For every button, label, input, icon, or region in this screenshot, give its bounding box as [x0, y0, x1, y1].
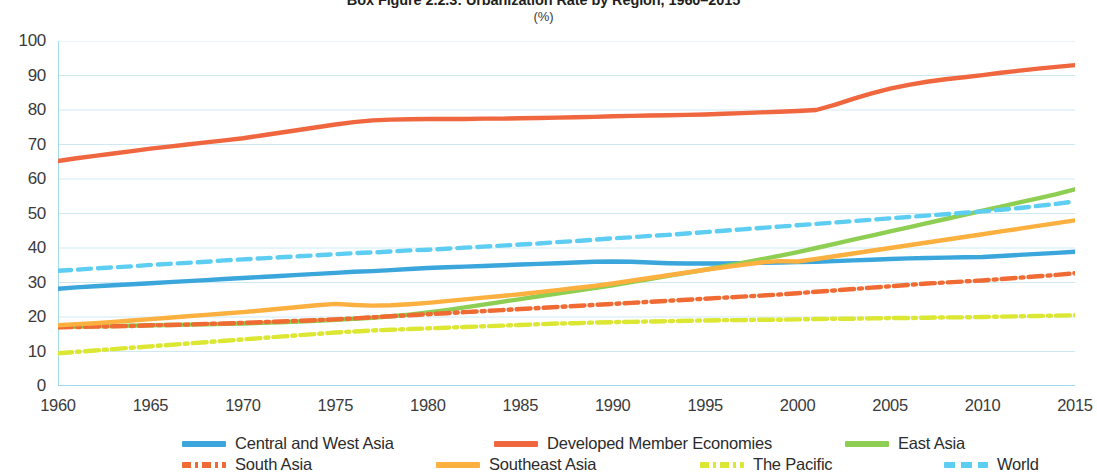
y-axis-tick: 50: [2, 205, 46, 222]
y-axis-tick: 60: [2, 170, 46, 187]
legend-row-top: Central and West AsiaDeveloped Member Ec…: [0, 434, 1087, 455]
x-axis-tick: 1960: [18, 397, 98, 414]
legend-item[interactable]: East Asia: [845, 435, 965, 452]
legend-color-swatch: [700, 462, 744, 468]
legend-color-swatch: [944, 462, 988, 468]
y-axis-tick: 20: [2, 308, 46, 325]
line-chart-canvas: [58, 41, 1075, 386]
y-axis-tick: 70: [2, 136, 46, 153]
x-axis-tick: 1990: [573, 397, 653, 414]
legend-label: Central and West Asia: [235, 435, 394, 452]
x-axis-tick: 1995: [665, 397, 745, 414]
legend-label: Southeast Asia: [489, 456, 596, 473]
legend-color-swatch: [494, 441, 538, 447]
page-title: Box Figure 2.2.3: Urbanization Rate by R…: [0, 0, 1087, 8]
legend-label: World: [997, 456, 1039, 473]
y-axis-tick: 40: [2, 239, 46, 256]
y-axis-tick: 30: [2, 274, 46, 291]
x-axis-tick: 1985: [480, 397, 560, 414]
legend-color-swatch: [182, 462, 226, 468]
y-axis-tick: 10: [2, 343, 46, 360]
x-axis-tick: 1970: [203, 397, 283, 414]
chart-legend: Central and West AsiaDeveloped Member Ec…: [0, 434, 1087, 476]
legend-item[interactable]: Central and West Asia: [182, 435, 394, 452]
x-axis-tick: 1980: [388, 397, 468, 414]
legend-label: Developed Member Economies: [547, 435, 772, 452]
axis-unit-label: (%): [0, 9, 1087, 25]
x-axis-tick: 2010: [943, 397, 1023, 414]
legend-item[interactable]: South Asia: [182, 456, 312, 473]
series-line-world: [58, 201, 1075, 270]
series-line-southeast-asia: [58, 220, 1075, 325]
x-axis-tick: 1965: [110, 397, 190, 414]
legend-item[interactable]: The Pacific: [700, 456, 832, 473]
x-axis-tick: 2015: [1035, 397, 1097, 414]
series-line-developed-member-economies: [58, 65, 1075, 161]
legend-label: East Asia: [898, 435, 965, 452]
y-axis-tick: 0: [2, 377, 46, 394]
title-wrapper: Box Figure 2.2.3: Urbanization Rate by R…: [0, 0, 1087, 8]
series-line-the-pacific: [58, 315, 1075, 353]
legend-item[interactable]: Southeast Asia: [436, 456, 596, 473]
x-axis-tick: 2005: [850, 397, 930, 414]
legend-color-swatch: [436, 462, 480, 468]
y-axis-tick: 100: [2, 32, 46, 49]
y-axis-tick: 80: [2, 101, 46, 118]
y-axis-tick: 90: [2, 67, 46, 84]
legend-label: The Pacific: [753, 456, 832, 473]
x-axis-tick: 2000: [758, 397, 838, 414]
legend-item[interactable]: Developed Member Economies: [494, 435, 772, 452]
plot-area: [58, 41, 1075, 386]
legend-color-swatch: [182, 441, 226, 447]
legend-color-swatch: [845, 441, 889, 447]
legend-item[interactable]: World: [944, 456, 1039, 473]
x-axis-tick: 1975: [295, 397, 375, 414]
legend-label: South Asia: [235, 456, 312, 473]
legend-row-bottom: South AsiaSoutheast AsiaThe PacificWorld: [0, 455, 1087, 476]
